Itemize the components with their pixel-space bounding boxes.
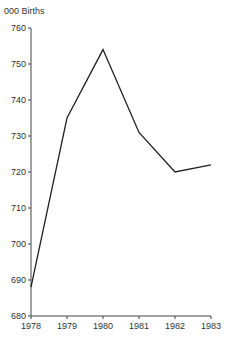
y-axis-title: 000 Births: [4, 6, 45, 16]
y-tick-label: 740: [11, 95, 26, 105]
births-line-chart: 000 Births 680690700710720730740750760 1…: [0, 0, 227, 341]
y-tick-label: 760: [11, 23, 26, 33]
x-tick-label: 1979: [57, 321, 77, 331]
y-tick-label: 730: [11, 131, 26, 141]
x-tick-label: 1982: [165, 321, 185, 331]
x-tick-label: 1983: [201, 321, 221, 331]
y-tick-label: 750: [11, 59, 26, 69]
x-tick-label: 1980: [93, 321, 113, 331]
x-axis-ticks: 197819791980198119821983: [21, 316, 221, 331]
chart-canvas: 000 Births 680690700710720730740750760 1…: [0, 0, 227, 341]
y-axis-ticks: 680690700710720730740750760: [11, 23, 31, 321]
y-tick-label: 700: [11, 239, 26, 249]
births-series-line: [31, 50, 211, 288]
x-tick-label: 1978: [21, 321, 41, 331]
axes: [31, 28, 211, 316]
y-tick-label: 720: [11, 167, 26, 177]
x-tick-label: 1981: [129, 321, 149, 331]
y-tick-label: 680: [11, 311, 26, 321]
y-tick-label: 710: [11, 203, 26, 213]
y-tick-label: 690: [11, 275, 26, 285]
